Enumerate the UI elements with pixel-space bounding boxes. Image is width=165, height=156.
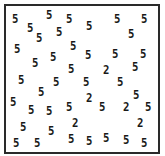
distractor-glyph: 5 [36,31,42,44]
distractor-glyph: 5 [34,136,40,149]
distractor-glyph: 5 [27,21,33,34]
distractor-glyph: 5 [18,73,24,86]
distractor-glyph: 5 [70,39,76,52]
distractor-glyph: 5 [32,56,38,69]
distractor-glyph: 5 [66,100,72,113]
distractor-glyph: 5 [46,104,52,117]
distractor-glyph: 5 [103,131,109,144]
target-glyph: 2 [72,116,78,129]
distractor-glyph: 5 [66,12,72,25]
distractor-glyph: 5 [128,27,134,40]
distractor-glyph: 5 [46,8,52,21]
target-glyph: 2 [86,91,92,104]
distractor-glyph: 5 [114,12,120,25]
distractor-glyph: 5 [14,42,20,55]
distractor-glyph: 5 [68,132,74,145]
distractor-glyph: 5 [145,100,151,113]
distractor-glyph: 5 [38,85,44,98]
target-glyph: 2 [123,100,129,113]
distractor-glyph: 5 [50,50,56,63]
distractor-glyph: 5 [141,12,147,25]
distractor-glyph: 5 [132,60,138,73]
distractor-glyph: 5 [83,75,89,88]
distractor-glyph: 5 [133,88,139,101]
distractor-glyph: 5 [140,47,146,60]
distractor-glyph: 5 [112,47,118,60]
distractor-glyph: 5 [28,103,34,116]
target-glyph: 2 [137,116,143,129]
distractor-glyph: 5 [13,136,19,149]
distractor-glyph: 5 [86,134,92,147]
distractor-glyph: 5 [117,75,123,88]
distractor-glyph: 5 [56,25,62,38]
distractor-glyph: 5 [68,62,74,75]
distractor-glyph: 5 [48,124,54,137]
distractor-glyph: 5 [85,48,91,61]
distractor-glyph: 5 [53,75,59,88]
distractor-glyph: 5 [141,136,147,149]
distractor-glyph: 5 [12,12,18,25]
distractor-glyph: 5 [99,100,105,113]
distractor-glyph: 5 [123,133,129,146]
distractor-glyph: 5 [86,19,92,32]
distractor-glyph: 5 [20,120,26,133]
distractor-glyph: 5 [10,95,16,108]
target-glyph: 2 [103,63,109,76]
